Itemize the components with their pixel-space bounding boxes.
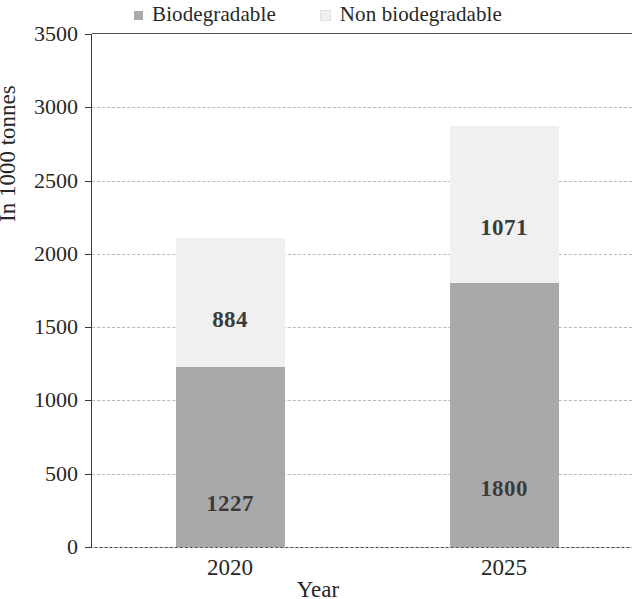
chart-legend: Biodegradable Non biodegradable	[0, 0, 636, 28]
bar-group-2020[interactable]: 1227884	[176, 34, 285, 547]
legend-swatch-biodegradable	[134, 11, 143, 20]
y-tick-label-3500: 3500	[0, 23, 78, 45]
gridline-0	[92, 547, 632, 548]
plot-area: 122788418001071	[92, 34, 632, 547]
stacked-bar-chart: Biodegradable Non biodegradable In 1000 …	[0, 0, 636, 599]
bar-group-2025[interactable]: 18001071	[450, 34, 559, 547]
x-category-label-2020: 2020	[170, 556, 290, 579]
y-tick-500	[85, 474, 92, 475]
bar-value-label-2025-non-biodegradable: 1071	[480, 216, 528, 239]
y-tick-label-3000: 3000	[0, 96, 78, 118]
y-tick-label-2500: 2500	[0, 170, 78, 192]
bar-value-label-2020-biodegradable: 1227	[206, 492, 254, 515]
legend-item-non-biodegradable: Non biodegradable	[320, 4, 502, 25]
x-category-label-2025: 2025	[444, 556, 564, 579]
y-tick-1000	[85, 400, 92, 401]
y-axis-line	[91, 34, 92, 548]
y-tick-1500	[85, 327, 92, 328]
y-tick-label-1000: 1000	[0, 389, 78, 411]
y-tick-label-0: 0	[0, 536, 78, 558]
y-tick-2000	[85, 254, 92, 255]
y-tick-3500	[85, 34, 92, 35]
legend-swatch-non-biodegradable	[320, 10, 331, 21]
bar-segment-2020-biodegradable[interactable]: 1227	[176, 367, 285, 547]
y-axis-title: In 1000 tonnes	[0, 22, 19, 222]
bar-value-label-2020-non-biodegradable: 884	[212, 308, 248, 331]
legend-label-non-biodegradable: Non biodegradable	[340, 4, 502, 25]
y-tick-label-2000: 2000	[0, 243, 78, 265]
legend-label-biodegradable: Biodegradable	[152, 4, 276, 25]
x-axis-title: Year	[0, 578, 636, 599]
y-tick-label-1500: 1500	[0, 316, 78, 338]
y-tick-2500	[85, 181, 92, 182]
bar-segment-2025-biodegradable[interactable]: 1800	[450, 283, 559, 547]
bar-value-label-2025-biodegradable: 1800	[480, 477, 528, 500]
legend-item-biodegradable: Biodegradable	[134, 4, 276, 25]
y-tick-0	[85, 547, 92, 548]
bar-segment-2025-non-biodegradable[interactable]: 1071	[450, 126, 559, 283]
bar-segment-2020-non-biodegradable[interactable]: 884	[176, 238, 285, 368]
y-tick-label-500: 500	[0, 463, 78, 485]
y-tick-3000	[85, 107, 92, 108]
